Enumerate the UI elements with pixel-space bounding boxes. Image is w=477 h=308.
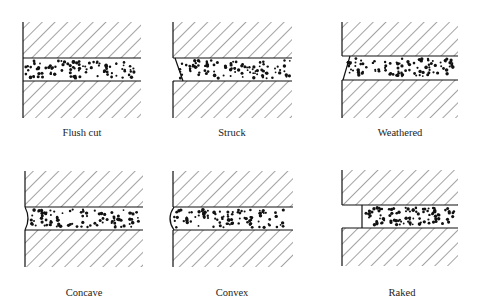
panel-raked: Raked [342, 170, 458, 298]
mortar-joints-diagram: Flush cut Struck Weathered [0, 0, 477, 308]
upper-brick [173, 22, 292, 58]
upper-brick [25, 171, 143, 207]
panel-label: Flush cut [63, 127, 102, 138]
panel-flush-cut: Flush cut [23, 22, 141, 138]
panel-concave: Concave [25, 171, 143, 298]
panel-weathered: Weathered [342, 22, 458, 138]
lower-brick [23, 81, 141, 118]
panel-label: Struck [218, 127, 246, 138]
lower-brick [173, 81, 292, 118]
lower-brick [342, 228, 458, 266]
mortar-joint [343, 56, 458, 80]
panel-label: Weathered [378, 127, 423, 138]
upper-brick [342, 170, 458, 205]
lower-brick [25, 230, 143, 267]
panel-convex: Convex [170, 171, 293, 298]
lower-brick [342, 80, 458, 118]
raked-recess [342, 205, 362, 228]
upper-brick [23, 22, 141, 58]
panel-label: Raked [389, 287, 417, 298]
panel-label: Convex [216, 287, 249, 298]
panel-struck: Struck [173, 22, 292, 138]
lower-brick [173, 230, 293, 267]
panel-label: Concave [66, 287, 103, 298]
upper-brick [342, 22, 458, 56]
upper-brick [173, 171, 293, 207]
